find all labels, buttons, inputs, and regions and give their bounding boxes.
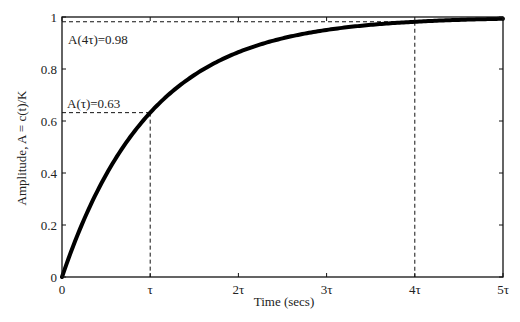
y-axis-label: Amplitude, A = c(t)/K bbox=[14, 90, 29, 206]
reference-dashed-lines bbox=[62, 22, 415, 277]
response-curve bbox=[62, 19, 503, 277]
svg-text:0.8: 0.8 bbox=[41, 62, 57, 77]
svg-text:2τ: 2τ bbox=[233, 282, 245, 297]
svg-text:0.2: 0.2 bbox=[41, 218, 57, 233]
svg-text:τ: τ bbox=[148, 282, 153, 297]
x-axis-ticks: 0τ2τ3τ4τ5τ bbox=[59, 17, 509, 297]
y-axis-ticks: 00.20.40.60.81 bbox=[41, 10, 503, 285]
x-axis-label: Time (secs) bbox=[254, 294, 315, 309]
svg-text:5τ: 5τ bbox=[497, 282, 509, 297]
annotation-a-tau: A(τ)=0.63 bbox=[67, 96, 120, 111]
svg-text:0.4: 0.4 bbox=[41, 166, 58, 181]
svg-text:4τ: 4τ bbox=[409, 282, 421, 297]
svg-text:3τ: 3τ bbox=[321, 282, 333, 297]
svg-text:1: 1 bbox=[51, 10, 58, 25]
svg-text:0: 0 bbox=[51, 270, 58, 285]
plot-frame bbox=[62, 17, 503, 277]
step-response-chart: 0τ2τ3τ4τ5τ 00.20.40.60.81 A(τ)=0.63 A(4τ… bbox=[0, 0, 520, 322]
annotation-a-4tau: A(4τ)=0.98 bbox=[68, 32, 128, 47]
svg-text:0.6: 0.6 bbox=[41, 114, 58, 129]
svg-text:0: 0 bbox=[59, 282, 66, 297]
